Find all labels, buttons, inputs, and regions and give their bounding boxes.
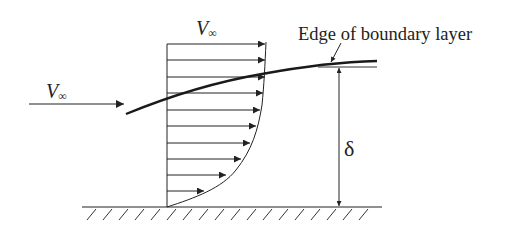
hatch-mark bbox=[103, 209, 112, 220]
hatch-mark bbox=[199, 209, 208, 220]
hatch-mark bbox=[295, 209, 304, 220]
hatch-mark bbox=[231, 209, 240, 220]
hatch-mark bbox=[263, 209, 272, 220]
hatch-mark bbox=[247, 209, 256, 220]
wall-hatching bbox=[87, 209, 368, 220]
hatch-mark bbox=[327, 209, 336, 220]
freestream-label-left: V∞ bbox=[46, 80, 67, 103]
thickness-label-delta: δ bbox=[344, 136, 354, 161]
hatch-mark bbox=[167, 209, 176, 220]
hatch-mark bbox=[119, 209, 128, 220]
velocity-profile-curve bbox=[167, 42, 266, 207]
hatch-mark bbox=[215, 209, 224, 220]
hatch-mark bbox=[359, 209, 368, 220]
hatch-mark bbox=[135, 209, 144, 220]
hatch-mark bbox=[279, 209, 288, 220]
hatch-mark bbox=[343, 209, 352, 220]
freestream-label-top: V∞ bbox=[196, 17, 217, 40]
boundary-layer-diagram: V∞ V∞ Edge of boundary layer δ bbox=[0, 0, 522, 235]
velocity-profile-arrows bbox=[167, 44, 265, 191]
hatch-mark bbox=[151, 209, 160, 220]
hatch-mark bbox=[183, 209, 192, 220]
edge-of-boundary-layer-label: Edge of boundary layer bbox=[298, 24, 472, 44]
edge-pointer-arrow bbox=[331, 43, 341, 62]
hatch-mark bbox=[311, 209, 320, 220]
hatch-mark bbox=[87, 209, 96, 220]
